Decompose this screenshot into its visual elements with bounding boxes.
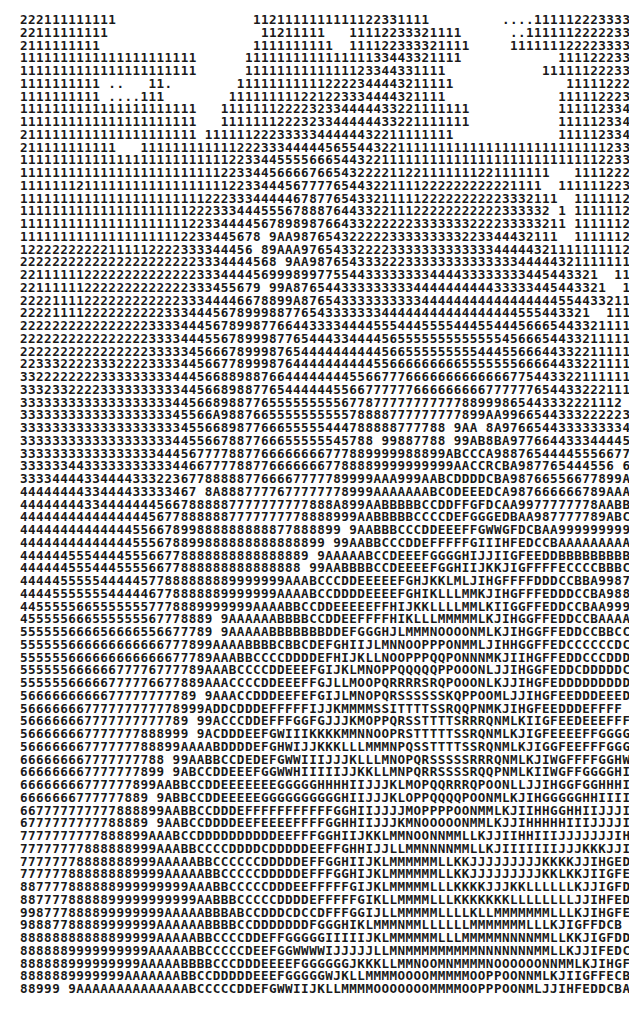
art-line: 88999 9AAAAAAAAAAAAAABCCCCCDDEFGWWIIJKLL… bbox=[20, 983, 629, 996]
character-art: 222111111111 1121111111111122331111 ....… bbox=[20, 14, 629, 996]
